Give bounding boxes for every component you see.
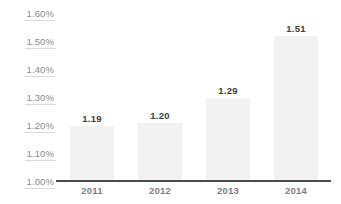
y-axis-tick-label: 1.00% (25, 176, 56, 189)
bar[interactable] (274, 36, 318, 180)
y-axis-tick-label: 1.50% (25, 36, 56, 49)
bar[interactable] (206, 98, 250, 180)
y-axis: 1.60% 1.50% 1.40% 1.30% 1.20% 1.10% 1.00… (0, 0, 58, 204)
bar-chart: 1.60% 1.50% 1.40% 1.30% 1.20% 1.10% 1.00… (0, 0, 341, 204)
y-axis-tick: 1.50% (0, 36, 56, 49)
x-axis-tick-label: 2012 (126, 184, 194, 198)
bar-group-2011: 1.19 (58, 10, 126, 180)
x-axis: 2011 2012 2013 2014 (58, 184, 330, 202)
y-axis-tick: 1.60% (0, 8, 56, 21)
bar-group-2012: 1.20 (126, 10, 194, 180)
bar[interactable] (138, 123, 182, 180)
bar-value-label: 1.51 (262, 23, 330, 34)
bar-value-label: 1.19 (58, 113, 126, 124)
bar-series: 1.19 1.20 1.29 1.51 (58, 10, 330, 180)
bar[interactable] (70, 126, 114, 180)
y-axis-tick-label: 1.60% (25, 8, 56, 21)
y-axis-tick-label: 1.30% (25, 92, 56, 105)
bar-group-2014: 1.51 (262, 10, 330, 180)
y-axis-tick-label: 1.20% (25, 120, 56, 133)
x-axis-tick-label: 2013 (194, 184, 262, 198)
y-axis-tick: 1.00% (0, 176, 56, 189)
bar-value-label: 1.20 (126, 110, 194, 121)
x-axis-tick-label: 2014 (262, 184, 330, 198)
x-axis-baseline (56, 180, 331, 182)
y-axis-tick: 1.20% (0, 120, 56, 133)
y-axis-tick-label: 1.40% (25, 64, 56, 77)
x-axis-tick-label: 2011 (58, 184, 126, 198)
y-axis-tick: 1.30% (0, 92, 56, 105)
y-axis-tick: 1.10% (0, 148, 56, 161)
bar-value-label: 1.29 (194, 85, 262, 96)
bar-group-2013: 1.29 (194, 10, 262, 180)
plot-area: 1.19 1.20 1.29 1.51 (58, 10, 330, 180)
y-axis-tick: 1.40% (0, 64, 56, 77)
y-axis-tick-label: 1.10% (25, 148, 56, 161)
